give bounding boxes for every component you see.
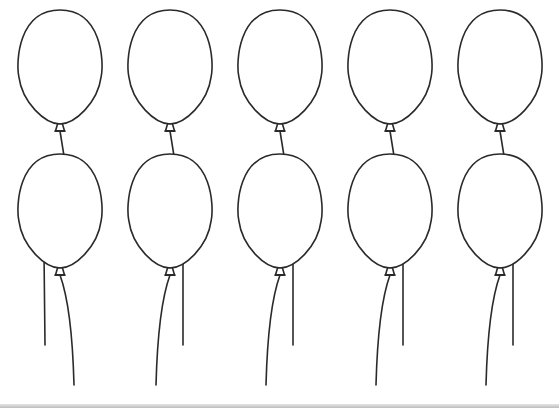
balloon-string-straight: [44, 253, 45, 345]
balloon-string-curved: [486, 275, 500, 385]
balloon-string: [390, 131, 394, 156]
balloon-top-1: [18, 10, 102, 156]
balloon-body: [348, 154, 432, 268]
balloon-bottom-2: [128, 154, 212, 385]
balloon-top-2: [128, 10, 212, 156]
balloon-body: [18, 154, 102, 268]
balloon-body: [128, 154, 212, 268]
balloon-string-curved: [60, 275, 74, 385]
balloon-top-4: [348, 10, 432, 156]
balloon-bottom-4: [348, 154, 432, 385]
balloon-string: [170, 131, 174, 156]
balloon-body: [348, 10, 432, 124]
balloon-bottom-1: [18, 154, 102, 385]
balloon-bottom-5: [458, 154, 542, 385]
balloon-string: [60, 131, 64, 156]
balloon-body: [458, 10, 542, 124]
balloon-string: [280, 131, 284, 156]
balloon-worksheet: [0, 0, 559, 408]
balloon-body: [458, 154, 542, 268]
balloon-body: [18, 10, 102, 124]
balloon-string-curved: [376, 275, 390, 385]
balloon-body: [128, 10, 212, 124]
balloon-body: [238, 154, 322, 268]
balloon-string-curved: [266, 275, 280, 385]
balloon-body: [238, 10, 322, 124]
balloon-bottom-3: [238, 154, 322, 385]
balloon-top-3: [238, 10, 322, 156]
balloon-string: [500, 131, 504, 156]
bottom-edge-bar: [0, 404, 559, 408]
balloon-top-5: [458, 10, 542, 156]
balloon-string-curved: [156, 275, 170, 385]
